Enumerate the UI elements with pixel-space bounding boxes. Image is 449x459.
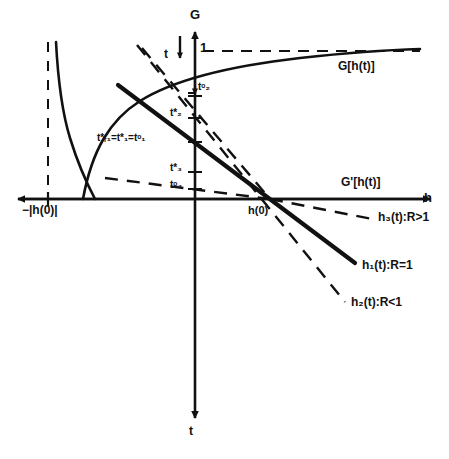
axis-label-t-top: t	[164, 48, 168, 60]
line-h1	[118, 85, 355, 263]
curve-label-h2: h₂(t):R<1	[351, 296, 402, 308]
asymptote-value-label: 1	[200, 41, 207, 54]
curve-label-h1: h₁(t):R=1	[362, 259, 413, 271]
line-h3-upper	[142, 48, 270, 199]
tick-label-t-theta-3: tᵒ₃	[170, 180, 182, 190]
axis-label-h: h	[424, 191, 432, 204]
tick-label-t-theta-2: tᵒ₂	[198, 82, 210, 92]
axis-label-g: G	[190, 8, 200, 21]
axis-label-t-bottom: t	[189, 425, 193, 437]
origin-label: h(0)	[248, 205, 268, 216]
tick-label-t-star-3: t*₃	[170, 163, 182, 173]
curve-label-g-of-h: G[h(t)]	[338, 60, 375, 72]
line-h2	[137, 45, 345, 302]
left-intercept-label: −|h(0)|	[22, 204, 58, 216]
figure-canvas: G t 1 h t −|h(0)| h(0) G[h(t)] G'[h(t)] …	[0, 0, 449, 459]
curve-label-h3: h₃(t):R>1	[378, 211, 429, 223]
diagram-svg	[0, 0, 449, 459]
tick-label-t-star-2: t*₂	[170, 108, 182, 118]
tick-label-t-r1-equation: t*ᵣ₁=t*₁=tᵒ₁	[97, 133, 145, 143]
curve-label-g-prime-of-h: G'[h(t)]	[341, 176, 381, 188]
